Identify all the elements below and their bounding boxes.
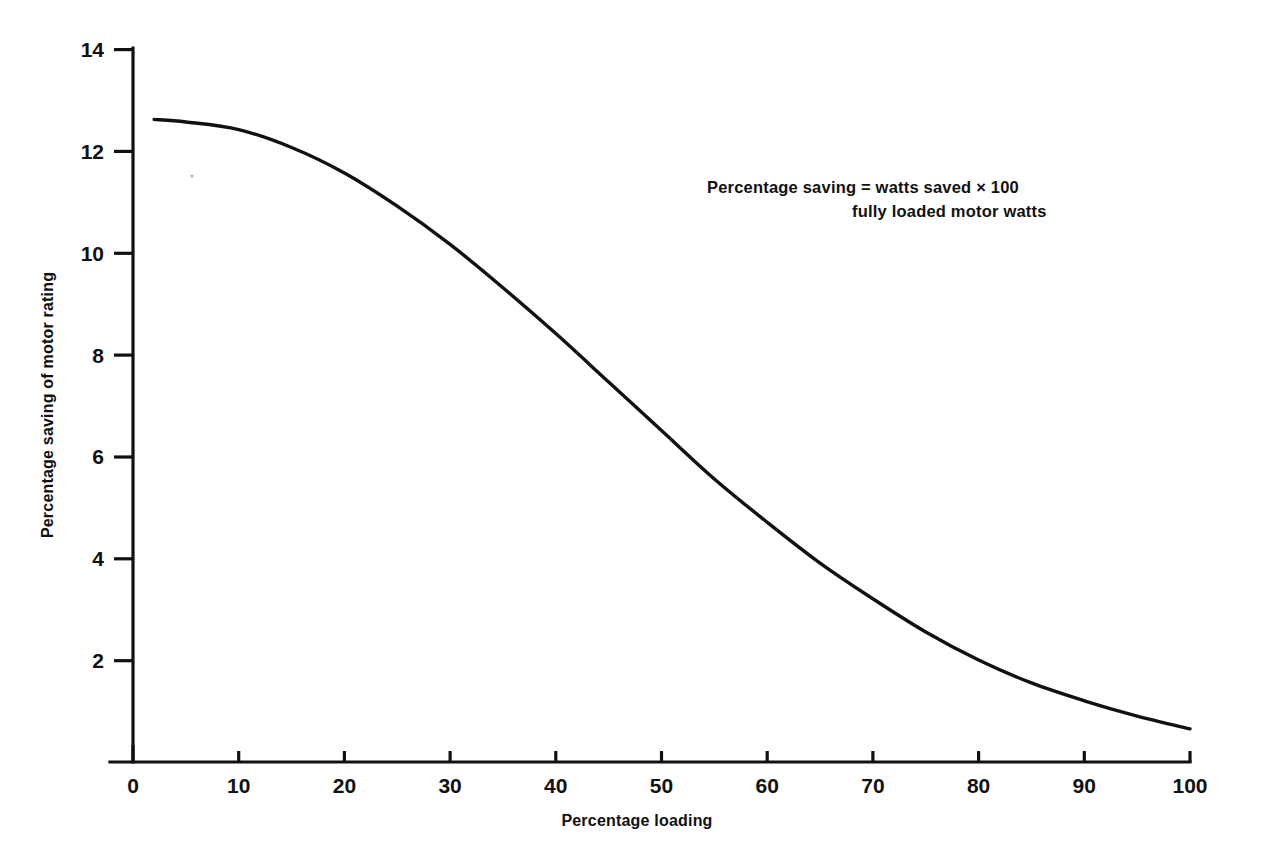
x-tick-label-90: 90 — [1073, 774, 1096, 797]
y-tick-label-14: 14 — [81, 38, 105, 61]
x-axis-title: Percentage loading — [561, 812, 712, 829]
x-tick-label-100: 100 — [1172, 774, 1207, 797]
y-tick-label-12: 12 — [81, 140, 104, 163]
x-tick-label-30: 30 — [438, 774, 461, 797]
y-axis-tick-labels: 14 12 10 8 6 4 2 — [81, 38, 105, 672]
x-axis: 0 10 20 30 40 50 60 70 80 90 100 Percent… — [110, 745, 1208, 829]
y-axis: 14 12 10 8 6 4 2 Percentage saving of mo… — [39, 38, 133, 762]
line-chart: 14 12 10 8 6 4 2 Percentage saving of mo… — [0, 0, 1272, 865]
x-tick-label-70: 70 — [861, 774, 884, 797]
formula-line-1: Percentage saving = watts saved × 100 — [707, 178, 1019, 196]
x-tick-label-0: 0 — [127, 774, 139, 797]
x-tick-label-20: 20 — [333, 774, 356, 797]
x-tick-label-60: 60 — [756, 774, 779, 797]
chart-figure: 14 12 10 8 6 4 2 Percentage saving of mo… — [0, 0, 1272, 865]
y-tick-label-6: 6 — [92, 445, 104, 468]
x-axis-ticks — [133, 745, 1190, 762]
formula-annotation: Percentage saving = watts saved × 100 fu… — [707, 178, 1047, 220]
x-tick-label-10: 10 — [227, 774, 250, 797]
formula-line-2: fully loaded motor watts — [852, 202, 1047, 220]
y-tick-label-4: 4 — [92, 547, 104, 570]
y-tick-label-10: 10 — [81, 242, 104, 265]
x-tick-label-50: 50 — [650, 774, 673, 797]
y-tick-label-2: 2 — [92, 649, 104, 672]
x-tick-label-40: 40 — [544, 774, 567, 797]
y-axis-title: Percentage saving of motor rating — [39, 272, 56, 538]
x-tick-label-80: 80 — [967, 774, 990, 797]
x-axis-tick-labels: 0 10 20 30 40 50 60 70 80 90 100 — [127, 774, 1207, 797]
scan-speck — [190, 174, 193, 177]
y-tick-label-8: 8 — [92, 344, 104, 367]
y-axis-ticks — [114, 50, 133, 661]
